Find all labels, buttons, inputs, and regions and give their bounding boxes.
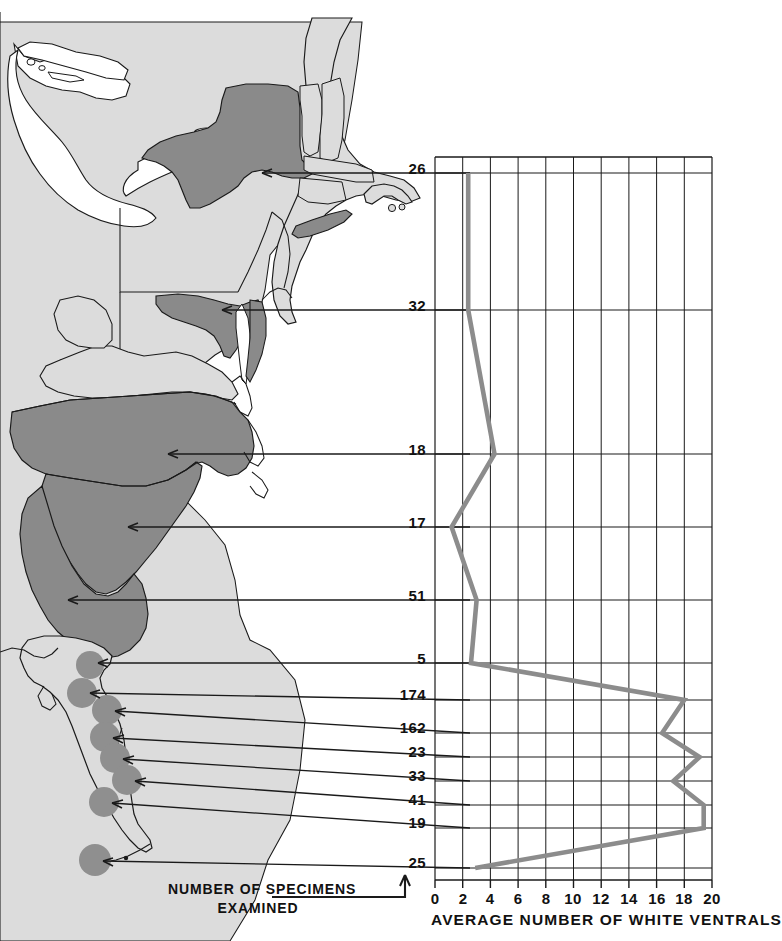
specimen-count-162: 162 [330, 719, 426, 736]
caption-line-2: EXAMINED [168, 899, 348, 918]
nantucket [399, 204, 405, 210]
xtick-20: 20 [698, 890, 726, 907]
marthas-vineyard [388, 204, 395, 211]
xtick-18: 18 [670, 890, 698, 907]
keys-dot [124, 856, 128, 860]
specimen-count-19: 19 [330, 814, 426, 831]
locality-circle [76, 651, 104, 679]
xtick-16: 16 [643, 890, 671, 907]
caption-line-1: NUMBER OF SPECIMENS [168, 880, 356, 899]
plot-grid [435, 157, 712, 888]
lake-island-b [39, 66, 45, 71]
specimen-count-23: 23 [330, 743, 426, 760]
xtick-12: 12 [587, 890, 615, 907]
specimen-count-41: 41 [330, 791, 426, 808]
specimen-count-17: 17 [330, 514, 426, 531]
x-axis-ticks [435, 880, 712, 888]
xtick-10: 10 [559, 890, 587, 907]
specimen-count-25: 25 [330, 854, 426, 871]
xtick-6: 6 [504, 890, 532, 907]
xtick-8: 8 [532, 890, 560, 907]
xtick-2: 2 [449, 890, 477, 907]
state-new-hampshire [320, 78, 344, 162]
specimen-count-32: 32 [330, 297, 426, 314]
specimen-count-5: 5 [330, 650, 426, 667]
xtick-4: 4 [476, 890, 504, 907]
specimen-count-26: 26 [330, 160, 426, 177]
specimen-count-51: 51 [330, 587, 426, 604]
specimen-count-18: 18 [330, 441, 426, 458]
state-vermont [300, 84, 322, 156]
specimen-count-174: 174 [330, 686, 426, 703]
xtick-0: 0 [421, 890, 449, 907]
lake-island-a [27, 59, 35, 65]
specimen-count-33: 33 [330, 767, 426, 784]
x-axis-title: AVERAGE NUMBER OF WHITE VENTRALS [431, 911, 782, 929]
state-connecticut-ri [298, 178, 346, 204]
data-line [452, 173, 704, 868]
xtick-14: 14 [615, 890, 643, 907]
